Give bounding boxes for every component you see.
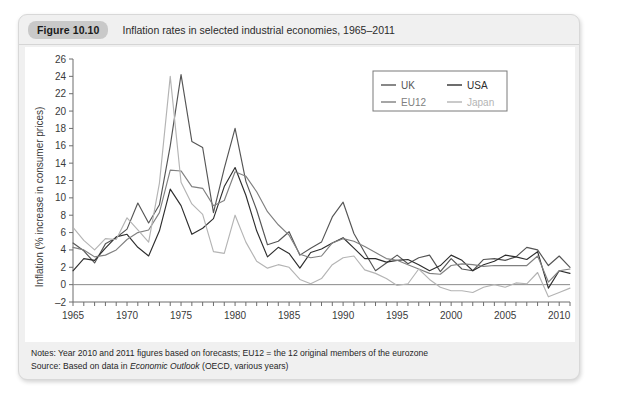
- y-tick-label: 20: [55, 106, 67, 117]
- y-axis-title-group: Inflation (% increase in consumer prices…: [34, 107, 45, 288]
- source-line: Source: Based on data in Economic Outloo…: [31, 360, 571, 373]
- x-tick-label: 1980: [224, 310, 247, 321]
- figure-notes: Notes: Year 2010 and 2011 figures based …: [31, 347, 571, 373]
- x-tick-label: 2010: [548, 310, 571, 321]
- x-tick-label: 1975: [170, 310, 193, 321]
- figure-header: Figure 10.10 Inflation rates in selected…: [19, 15, 579, 45]
- figure-number-badge: Figure 10.10: [28, 21, 108, 39]
- y-tick-label: 16: [55, 140, 67, 151]
- x-tick-label: 1970: [116, 310, 139, 321]
- y-tick-label: 12: [55, 175, 67, 186]
- source-suffix: (OECD, various years): [200, 361, 289, 371]
- chart-legend: UKUSAEU12Japan: [373, 71, 507, 111]
- series-line-eu12: [73, 170, 570, 282]
- y-tick-label: 26: [55, 54, 67, 65]
- source-prefix: Source: Based on data in: [31, 361, 130, 371]
- y-tick-label: 0: [60, 279, 66, 290]
- y-tick-label: 6: [60, 227, 66, 238]
- series-line-usa: [73, 167, 570, 288]
- x-tick-label: 1995: [386, 310, 409, 321]
- y-tick-label: 22: [55, 88, 67, 99]
- source-publication: Economic Outlook: [130, 361, 200, 371]
- chart-plot-panel: Inflation (% increase in consumer prices…: [25, 47, 575, 342]
- inflation-line-chart: Inflation (% increase in consumer prices…: [25, 47, 575, 342]
- legend-label-usa: USA: [467, 80, 488, 91]
- y-tick-label: 8: [60, 210, 66, 221]
- figure-card: Figure 10.10 Inflation rates in selected…: [18, 14, 580, 380]
- y-tick-label: –2: [55, 297, 67, 308]
- legend-label-uk: UK: [401, 80, 415, 91]
- y-tick-label: 18: [55, 123, 67, 134]
- y-tick-label: 2: [60, 262, 66, 273]
- figure-title: Inflation rates in selected industrial e…: [122, 24, 394, 36]
- notes-line: Notes: Year 2010 and 2011 figures based …: [31, 347, 571, 360]
- x-axis-ticks: 1965197019751980198519901995200020052010: [62, 302, 571, 321]
- x-tick-label: 1990: [332, 310, 355, 321]
- legend-label-japan: Japan: [467, 97, 494, 108]
- y-tick-label: 24: [55, 71, 67, 82]
- y-tick-label: 14: [55, 158, 67, 169]
- y-tick-label: 10: [55, 192, 67, 203]
- x-tick-label: 2000: [440, 310, 463, 321]
- y-tick-label: 4: [60, 244, 66, 255]
- x-tick-label: 1965: [62, 310, 85, 321]
- y-axis-ticks: –202468101214161820222426: [55, 54, 73, 308]
- x-tick-label: 1985: [278, 310, 301, 321]
- x-tick-label: 2005: [494, 310, 517, 321]
- legend-label-eu12: EU12: [401, 97, 426, 108]
- y-axis-title: Inflation (% increase in consumer prices…: [34, 107, 45, 288]
